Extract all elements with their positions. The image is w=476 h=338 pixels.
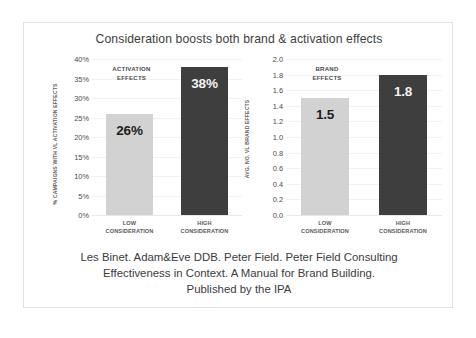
category-label-line: LOW (318, 220, 331, 226)
bars-brand: 1.51.8 (286, 59, 442, 215)
bar-value-label: 38% (167, 76, 242, 91)
y-axis-tick-label: 1.4 (273, 101, 283, 110)
y-axis-tick-label: 0.8 (273, 148, 283, 157)
x-axis-category-label: HIGHCONSIDERATION (364, 219, 442, 235)
y-axis-tick-label: 0% (78, 211, 89, 220)
series-annotation-line-1: BRAND (315, 65, 338, 72)
y-axis-tick-label: 1.0 (273, 133, 283, 142)
y-axis-tick-label: 10% (74, 172, 89, 181)
series-annotation-line-2: EFFECTS (312, 74, 341, 81)
bar-group: 1.8 (364, 59, 442, 215)
category-label-line: CONSIDERATION (106, 228, 154, 234)
y-axis-tick-label: 1.2 (273, 117, 283, 126)
category-label-line: CONSIDERATION (181, 228, 229, 234)
y-axis-tick-label: 2.0 (273, 55, 283, 64)
y-axis-tick-label: 25% (74, 113, 89, 122)
chart-panel-brand: AVG. NO. VL BRAND EFFECTS 0.00.20.40.60.… (246, 59, 446, 241)
category-label-line: CONSIDERATION (379, 228, 427, 234)
caption-line-2: Effectiveness in Context. A Manual for B… (24, 265, 454, 281)
y-axis-tick-label: 1.8 (273, 70, 283, 79)
category-label-line: HIGH (396, 220, 410, 226)
category-label-line: HIGH (197, 220, 211, 226)
y-axis-title-brand: AVG. NO. VL BRAND EFFECTS (244, 74, 254, 204)
y-axis-tick-label: 5% (78, 191, 89, 200)
bar-value-label: 1.5 (286, 107, 364, 122)
slide-frame: Consideration boosts both brand & activa… (23, 22, 453, 308)
category-label-line: CONSIDERATION (301, 228, 349, 234)
y-axis-tick-label: 35% (74, 74, 89, 83)
category-label-line: LOW (123, 220, 136, 226)
chart-panel-activation: % CAMPAIGNS WITH VL ACTIVATION EFFECTS 0… (54, 59, 246, 241)
y-axis-tick-label: 1.6 (273, 86, 283, 95)
y-axis-tick-label: 15% (74, 152, 89, 161)
y-axis-tick-label: 0.6 (273, 164, 283, 173)
caption-line-3: Published by the IPA (24, 281, 454, 297)
series-annotation-activation: ACTIVATION EFFECTS (94, 65, 169, 82)
y-axis-tick-label: 40% (74, 55, 89, 64)
bars-activation: 26%38% (92, 59, 242, 215)
y-axis-tick-label: 0.4 (273, 179, 283, 188)
y-axis-title-activation: % CAMPAIGNS WITH VL ACTIVATION EFFECTS (52, 79, 62, 209)
series-annotation-line-1: ACTIVATION (112, 65, 150, 72)
series-annotation-line-2: EFFECTS (117, 74, 146, 81)
plot-area-activation: 0%5%10%15%20%25%30%35%40% 26%38% (92, 59, 242, 215)
x-axis-category-label: LOWCONSIDERATION (286, 219, 364, 235)
bar-value-label: 1.8 (364, 84, 442, 99)
chart-title: Consideration boosts both brand & activa… (24, 32, 454, 46)
y-axis-tick-label: 20% (74, 133, 89, 142)
y-axis-tick-label: 30% (74, 94, 89, 103)
bar-group: 26% (92, 59, 167, 215)
plot-area-brand: 0.00.20.40.60.81.01.21.41.61.82.0 1.51.8 (286, 59, 442, 215)
series-annotation-brand: BRAND EFFECTS (288, 65, 366, 82)
bar-group: 38% (167, 59, 242, 215)
x-axis-category-label: LOWCONSIDERATION (92, 219, 167, 235)
bar-value-label: 26% (92, 123, 167, 138)
source-caption: Les Binet. Adam&Eve DDB. Peter Field. Pe… (24, 249, 454, 298)
gridline (92, 215, 242, 216)
x-axis-category-label: HIGHCONSIDERATION (167, 219, 242, 235)
bar-group: 1.5 (286, 59, 364, 215)
caption-line-1: Les Binet. Adam&Eve DDB. Peter Field. Pe… (24, 249, 454, 265)
gridline (286, 215, 442, 216)
y-axis-tick-label: 0.2 (273, 195, 283, 204)
y-axis-tick-label: 0.0 (273, 211, 283, 220)
